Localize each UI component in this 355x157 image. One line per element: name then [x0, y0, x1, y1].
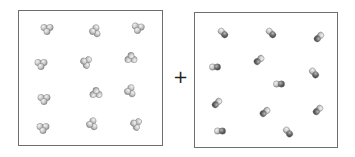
triatomic-molecule	[90, 87, 102, 97]
diatomic-molecule	[273, 81, 284, 87]
diatomic-molecule	[211, 97, 223, 109]
diatomic-molecule	[214, 128, 225, 134]
diatomic-molecule	[312, 104, 324, 116]
triatomic-molecule	[131, 22, 145, 34]
diatomic-molecule	[217, 27, 229, 39]
diatomic-molecule	[253, 54, 266, 66]
triatomic-molecule	[129, 116, 143, 131]
triatomic-molecule	[88, 24, 100, 38]
diatomic-molecule	[259, 106, 272, 118]
triatomic-molecules	[35, 22, 145, 133]
triatomic-molecule	[35, 59, 47, 69]
diatomic-molecules	[209, 27, 325, 139]
diatomic-molecule	[209, 64, 220, 70]
triatomic-molecule	[125, 52, 137, 62]
diatomic-molecule	[308, 67, 320, 80]
diatomic-molecule	[265, 27, 277, 39]
molecule-layer	[0, 0, 355, 157]
diatomic-molecule	[282, 126, 294, 139]
triatomic-molecule	[38, 94, 50, 104]
triatomic-molecule	[85, 117, 97, 131]
triatomic-molecule	[37, 123, 49, 133]
triatomic-molecule	[79, 54, 93, 69]
triatomic-molecule	[41, 24, 53, 34]
diatomic-molecule	[313, 31, 325, 43]
triatomic-molecule	[123, 84, 135, 98]
